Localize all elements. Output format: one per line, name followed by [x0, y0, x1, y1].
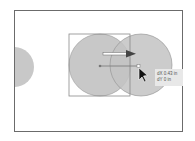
partial-circle-left[interactable] [0, 47, 34, 87]
anchor-point [137, 65, 140, 68]
dy-value: dY 0 in [157, 77, 181, 83]
center-point [99, 65, 102, 68]
dragged-circle[interactable] [110, 34, 172, 96]
move-delta-tooltip: dX 0.43 in dY 0 in [155, 69, 183, 86]
